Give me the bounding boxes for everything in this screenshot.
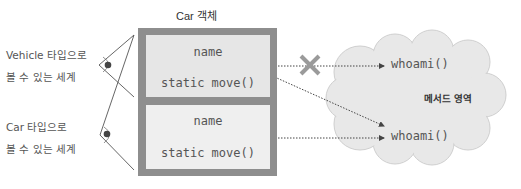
method-static-move: static move() — [146, 76, 270, 90]
view-label-vehicle-line1: Vehicle 타입으로 — [6, 44, 87, 66]
view-lines — [99, 35, 134, 170]
view-label-vehicle: Vehicle 타입으로 볼 수 있는 세계 — [6, 44, 87, 88]
view-label-car: Car 타입으로 볼 수 있는 세계 — [6, 116, 76, 160]
field-name: name — [146, 114, 270, 128]
method-whoami-car: whoami() — [391, 129, 449, 143]
method-whoami-vehicle: whoami() — [391, 57, 449, 71]
view-label-car-line1: Car 타입으로 — [6, 116, 76, 138]
car-section: name static move() — [146, 105, 270, 169]
view-label-vehicle-line2: 볼 수 있는 세계 — [6, 66, 87, 88]
eye-icon-car — [104, 127, 111, 143]
view-label-car-line2: 볼 수 있는 세계 — [6, 138, 76, 160]
car-object-box: name static move() name static move() — [138, 28, 277, 176]
method-area-cloud — [326, 30, 506, 165]
object-title: Car 객체 — [176, 7, 217, 23]
field-name: name — [146, 45, 270, 59]
blocked-x-icon — [301, 56, 319, 74]
vehicle-section: name static move() — [146, 35, 270, 97]
method-static-move: static move() — [146, 146, 270, 160]
method-area-label: 메서드 영역 — [424, 91, 472, 105]
